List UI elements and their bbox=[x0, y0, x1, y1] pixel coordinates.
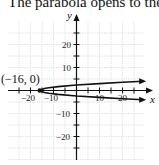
y-tick-label: −20 bbox=[56, 132, 71, 142]
x-tick-label: −20 bbox=[21, 93, 36, 103]
parabola-chart: −20 −10 10 20 20 10 −10 −20 x y (−16, 0) bbox=[0, 0, 159, 165]
y-tick-label: 10 bbox=[62, 63, 72, 73]
y-axis-label: y bbox=[66, 9, 72, 21]
y-tick-label: −10 bbox=[56, 109, 71, 119]
y-axis-arrow-icon bbox=[74, 14, 80, 21]
vertex-point bbox=[38, 88, 42, 92]
x-axis-label: x bbox=[149, 93, 155, 105]
vertex-label: (−16, 0) bbox=[1, 72, 40, 86]
y-tick-label: 20 bbox=[62, 40, 72, 50]
